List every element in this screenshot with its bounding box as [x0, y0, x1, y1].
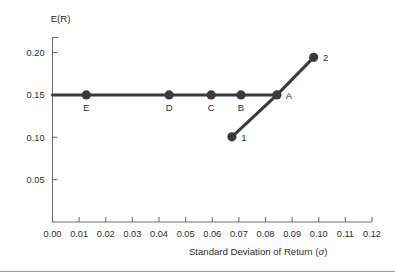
point-label-E: E — [83, 102, 89, 113]
point-label-1: 1 — [241, 132, 246, 143]
x-tick-label-1: 0.01 — [70, 229, 88, 239]
footer-divider — [0, 271, 395, 272]
y-axis-title: E(R) — [51, 13, 71, 24]
data-markers — [82, 53, 319, 142]
x-tick-label-11: 0.11 — [337, 229, 354, 239]
marker-B — [236, 90, 245, 99]
y-tick-label-3: 0.20 — [27, 48, 45, 58]
point-label-B: B — [238, 102, 244, 113]
marker-A — [272, 90, 281, 99]
x-tick-label-8: 0.08 — [257, 229, 275, 239]
x-tick-label-10: 0.10 — [310, 229, 328, 239]
x-tick-label-3: 0.03 — [123, 229, 141, 239]
marker-C — [207, 90, 216, 99]
point-label-D: D — [166, 102, 173, 113]
chart-figure: 0.000.010.020.030.040.050.060.070.080.09… — [0, 0, 395, 277]
marker-1 — [227, 132, 236, 141]
axis-frame — [53, 38, 373, 223]
axes — [53, 38, 373, 223]
chart-canvas: 0.000.010.020.030.040.050.060.070.080.09… — [0, 0, 395, 277]
x-tick-label-2: 0.02 — [97, 229, 115, 239]
point-label-2: 2 — [323, 52, 328, 63]
x-tick-label-7: 0.07 — [230, 229, 248, 239]
x-tick-label-4: 0.04 — [150, 229, 168, 239]
point-label-C: C — [208, 102, 215, 113]
x-tick-label-5: 0.05 — [177, 229, 195, 239]
x-tick-label-6: 0.06 — [203, 229, 221, 239]
y-tick-labels: 0.050.100.150.20 — [27, 48, 45, 185]
data-point-labels: EDCBA12 — [83, 52, 328, 143]
axis-ticks — [53, 53, 373, 222]
y-tick-label-2: 0.15 — [27, 90, 45, 100]
marker-E — [82, 90, 91, 99]
x-tick-label-12: 0.12 — [363, 229, 381, 239]
y-tick-label-0: 0.05 — [27, 175, 45, 185]
x-tick-label-0: 0.00 — [44, 229, 62, 239]
x-tick-labels: 0.000.010.020.030.040.050.060.070.080.09… — [44, 229, 381, 239]
axis-titles: E(R)Standard Deviation of Return (σ) — [51, 13, 328, 257]
point-label-A: A — [286, 90, 293, 101]
marker-2 — [309, 53, 318, 62]
x-tick-label-9: 0.09 — [283, 229, 301, 239]
marker-D — [165, 90, 174, 99]
y-tick-label-1: 0.10 — [27, 133, 45, 143]
x-axis-title: Standard Deviation of Return (σ) — [189, 246, 328, 257]
